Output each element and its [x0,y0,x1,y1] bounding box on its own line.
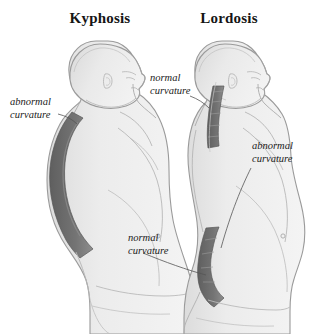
annotation-normal-curvature-lumbar: normal curvature [128,232,168,257]
annotation-line-1: normal [150,72,190,85]
kyphosis-head [70,44,145,108]
annotation-normal-curvature-cervical: normal curvature [150,72,190,97]
annotation-abnormal-curvature-right: abnormal curvature [252,140,293,165]
annotation-abnormal-curvature-left: abnormal curvature [10,96,51,121]
annotation-line-2: curvature [128,245,168,258]
annotation-line-1: abnormal [10,96,51,109]
lordosis-head [195,44,270,108]
annotation-line-2: curvature [252,153,293,166]
annotation-line-1: abnormal [252,140,293,153]
figure-artwork [0,0,313,334]
title-lordosis: Lordosis [181,10,277,27]
title-kyphosis: Kyphosis [52,10,148,27]
annotation-line-2: curvature [150,85,190,98]
annotation-line-1: normal [128,232,168,245]
annotation-line-2: curvature [10,109,51,122]
lordosis-figure [184,41,305,334]
spinal-curvature-diagram: Kyphosis Lordosis abnormal curvature nor… [0,0,313,334]
